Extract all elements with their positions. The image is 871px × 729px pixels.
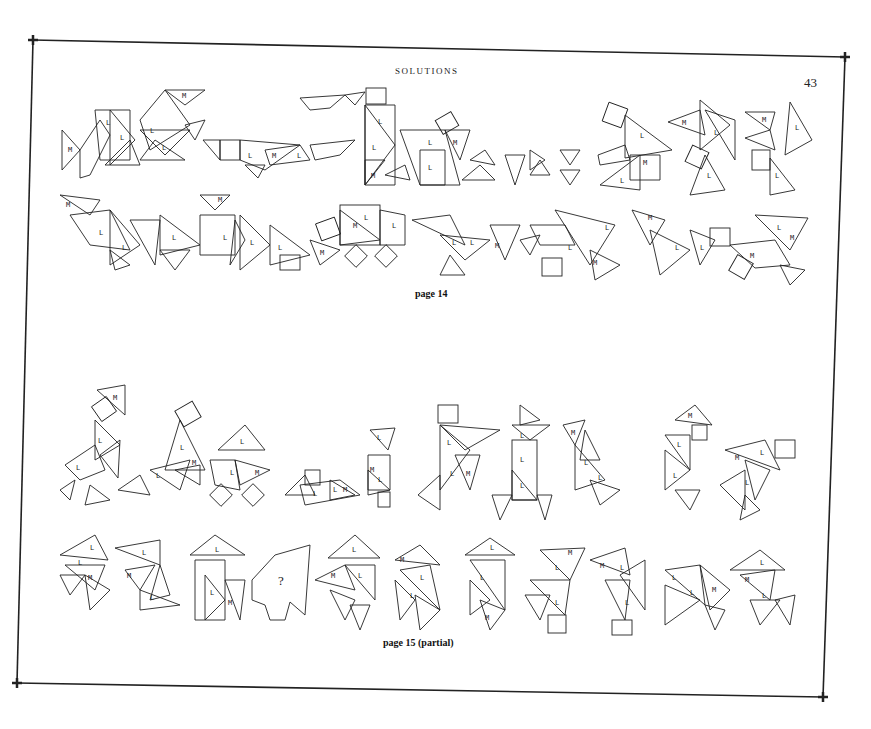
svg-text:L: L (598, 474, 602, 482)
svg-text:L: L (745, 479, 749, 487)
svg-text:L: L (352, 546, 356, 554)
svg-text:L: L (555, 599, 559, 607)
tangram-figure: LLM (285, 470, 360, 505)
svg-text:L: L (760, 449, 764, 457)
tangram-figure: LLM (418, 405, 500, 510)
svg-text:?: ? (278, 573, 284, 588)
svg-text:M: M (735, 454, 739, 462)
svg-text:M: M (113, 394, 117, 402)
svg-text:M: M (485, 614, 489, 622)
tangram-figure: LML (115, 540, 180, 610)
svg-text:M: M (228, 599, 232, 607)
tangram-figure: LML (730, 550, 795, 625)
svg-text:L: L (420, 574, 424, 582)
svg-text:M: M (400, 556, 404, 564)
tangram-figure: MLL (395, 545, 440, 630)
svg-text:L: L (520, 482, 524, 490)
book-page: SOLUTIONS 43 MLL MLL LML LLM (0, 0, 871, 729)
tangram-figure: MLL (525, 548, 585, 633)
svg-text:M: M (331, 572, 335, 580)
svg-text:L: L (677, 441, 681, 449)
svg-text:M: M (192, 459, 196, 467)
svg-text:L: L (447, 439, 451, 447)
svg-text:L: L (625, 599, 629, 607)
tangram-figure: LLM (60, 535, 110, 610)
svg-text:L: L (98, 437, 102, 445)
svg-text:L: L (240, 438, 244, 446)
svg-text:L: L (690, 589, 694, 597)
svg-text:L: L (480, 574, 484, 582)
caption-page15: page 15 (partial) (383, 637, 454, 648)
svg-text:L: L (620, 564, 624, 572)
tangram-figure: LML (315, 535, 380, 630)
tangram-figure: LLM (465, 538, 515, 630)
tangram-figure: LLM (665, 565, 730, 630)
tangram-figure: LML (118, 401, 205, 495)
svg-text:L: L (142, 549, 146, 557)
svg-text:M: M (688, 412, 692, 420)
svg-text:L: L (378, 476, 382, 484)
tangram-figure: LLL (492, 405, 552, 520)
svg-text:L: L (520, 456, 524, 464)
svg-text:L: L (210, 589, 214, 597)
tangram-figure: LML (368, 428, 395, 507)
svg-text:M: M (343, 486, 347, 494)
svg-text:M: M (466, 470, 470, 478)
tangram-figure-unknown: ? (252, 545, 310, 620)
svg-text:M: M (568, 549, 572, 557)
svg-text:L: L (520, 432, 524, 440)
tangram-figure: LLM (210, 425, 270, 506)
tangram-figure: MLL (720, 440, 795, 520)
svg-text:L: L (90, 544, 94, 552)
svg-text:M: M (127, 572, 131, 580)
svg-text:L: L (584, 459, 588, 467)
tangram-figure: LLM (190, 535, 245, 620)
svg-text:L: L (230, 469, 234, 477)
svg-text:L: L (358, 572, 362, 580)
svg-text:L: L (333, 486, 337, 494)
svg-text:L: L (215, 546, 219, 554)
svg-text:M: M (370, 466, 374, 474)
svg-text:L: L (78, 559, 82, 567)
svg-text:L: L (762, 592, 766, 600)
svg-text:L: L (673, 472, 677, 480)
svg-text:L: L (555, 564, 559, 572)
svg-text:L: L (410, 592, 414, 600)
tangram-figure: MLL (563, 420, 620, 505)
svg-text:L: L (490, 544, 494, 552)
svg-text:L: L (76, 464, 80, 472)
tangram-figure: MLL (665, 405, 712, 510)
tangram-figure: MLL (590, 548, 645, 635)
tangram-figures-page15: MLL LML LLM LLM LML LLM (0, 0, 871, 729)
svg-text:L: L (672, 574, 676, 582)
svg-text:M: M (745, 576, 749, 584)
svg-text:L: L (150, 594, 154, 602)
svg-text:L: L (313, 490, 317, 498)
svg-text:L: L (156, 472, 160, 480)
svg-text:L: L (760, 559, 764, 567)
tangram-figure: MLL (60, 385, 125, 505)
svg-text:L: L (180, 444, 184, 452)
svg-text:M: M (712, 586, 716, 594)
svg-text:L: L (377, 434, 381, 442)
svg-text:M: M (255, 469, 259, 477)
svg-text:M: M (600, 562, 604, 570)
svg-text:L: L (450, 470, 454, 478)
svg-text:M: M (571, 429, 575, 437)
svg-text:M: M (88, 574, 92, 582)
